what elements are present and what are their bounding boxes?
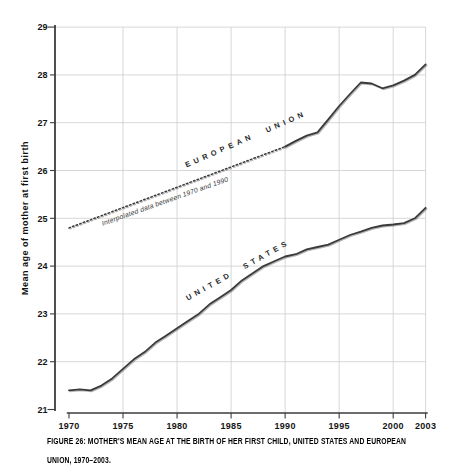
eu-line [285,64,426,146]
x-tick-label: 1985 [220,421,241,431]
y-tick-label: 26 [37,166,47,176]
x-tick-label: 1970 [58,421,79,431]
caption-line-2: UNION, 1970–2003. [47,450,433,469]
x-tick-label: 1975 [112,421,133,431]
y-tick-label: 29 [37,22,47,32]
x-tick-label: 2003 [415,421,436,431]
y-axis-title: Mean age of mother at first birth [20,141,30,295]
y-tick-label: 23 [37,309,47,319]
x-tick-label: 2000 [383,421,404,431]
y-tick-label: 21 [37,405,47,415]
y-tick-label: 28 [37,70,47,80]
y-tick-label: 27 [37,118,47,128]
figure-26-chart: 2122232425262728291970197519801985199019… [0,0,451,475]
x-tick-label: 1980 [166,421,187,431]
y-tick-label: 25 [37,214,47,224]
y-tick-label: 24 [37,261,47,271]
x-tick-label: 1995 [329,421,350,431]
us-line [69,208,426,391]
caption-line-1: FIGURE 26: MOTHER'S MEAN AGE AT THE BIRT… [47,431,433,450]
chart-canvas: 2122232425262728291970197519801985199019… [0,0,451,475]
figure-caption: FIGURE 26: MOTHER'S MEAN AGE AT THE BIRT… [47,431,433,469]
x-tick-label: 1990 [275,421,296,431]
y-tick-label: 22 [37,357,47,367]
